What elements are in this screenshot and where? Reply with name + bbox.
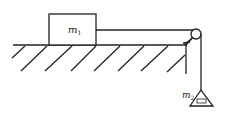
ground-hatching [12, 46, 185, 72]
physics-diagram: m1 m2 [0, 0, 227, 114]
pulley [191, 29, 201, 39]
m2-label: m2 [182, 90, 195, 101]
